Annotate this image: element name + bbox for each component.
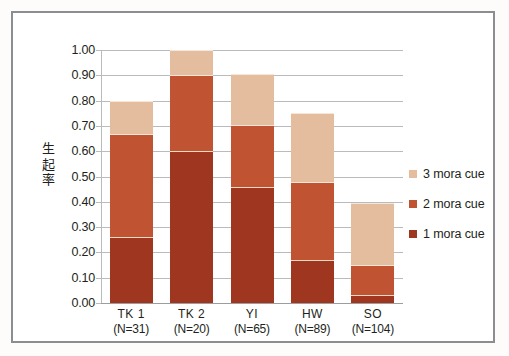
x-axis-label-group: SO(N=104) [342,307,404,337]
y-axis-tick-label: 0.40 [53,196,95,208]
x-axis-category-label: SO [342,307,404,322]
y-axis-tick [96,151,101,152]
x-axis-label-group: HW(N=89) [281,307,343,337]
bar-segment-s3[interactable] [231,74,274,125]
bar-group[interactable] [170,50,213,303]
y-axis-tick-label: 0.00 [53,297,95,309]
y-axis-tick [96,126,101,127]
y-axis-tick [96,278,101,279]
legend-swatch-icon [409,230,417,238]
bar-segment-s2[interactable] [291,182,334,260]
plot-area [101,50,403,303]
y-axis-tick-label: 0.90 [53,69,95,81]
chart-legend: 3 mora cue2 mora cue1 mora cue [409,159,501,249]
y-axis-tick-label: 1.00 [53,44,95,56]
legend-label: 1 mora cue [423,227,485,241]
legend-item[interactable]: 2 mora cue [409,189,501,219]
legend-label: 3 mora cue [423,167,485,181]
bar-segment-s1[interactable] [231,187,274,303]
bar-group[interactable] [110,50,153,303]
x-axis-category-label: YI [221,307,283,322]
chart-frame: 生 起 率 1.000.900.800.700.600.500.400.300.… [11,11,495,343]
y-axis-tick-label: 0.20 [53,246,95,258]
y-axis-tick [96,252,101,253]
bar-segment-s2[interactable] [110,134,153,238]
y-axis-tick-label: 0.80 [53,95,95,107]
bar-group[interactable] [231,50,274,303]
y-axis-tick-label: 0.60 [53,145,95,157]
bar-segment-s2[interactable] [170,75,213,151]
bar-segment-s3[interactable] [351,203,394,265]
x-axis-sample-size-label: (N=20) [161,322,223,337]
y-axis-tick [96,101,101,102]
x-axis-category-label: HW [281,307,343,322]
y-axis-tick [96,202,101,203]
x-axis-label-group: YI(N=65) [221,307,283,337]
y-axis-tick-labels: 1.000.900.800.700.600.500.400.300.200.10… [49,50,95,303]
chart-figure: 生 起 率 1.000.900.800.700.600.500.400.300.… [0,0,509,356]
legend-item[interactable]: 1 mora cue [409,219,501,249]
legend-label: 2 mora cue [423,197,485,211]
bar-group[interactable] [291,50,334,303]
x-axis-sample-size-label: (N=31) [100,322,162,337]
bar-segment-s1[interactable] [170,151,213,303]
y-axis-tick-label: 0.30 [53,221,95,233]
bar-segment-s1[interactable] [110,237,153,303]
y-axis-tick-label: 0.50 [53,171,95,183]
bar-group[interactable] [351,50,394,303]
x-axis-sample-size-label: (N=89) [281,322,343,337]
bar-segment-s1[interactable] [351,295,394,303]
y-axis-tick-label: 0.70 [53,120,95,132]
bar-segment-s2[interactable] [231,125,274,187]
y-axis-tick [96,227,101,228]
bar-segment-s3[interactable] [110,101,153,134]
y-axis-tick [96,50,101,51]
y-axis-tick-label: 0.10 [53,272,95,284]
y-axis-tick [96,303,101,304]
bar-segment-s3[interactable] [291,113,334,181]
legend-item[interactable]: 3 mora cue [409,159,501,189]
x-axis-label-group: TK 1(N=31) [100,307,162,337]
bar-segment-s1[interactable] [291,260,334,303]
bar-segment-s3[interactable] [170,50,213,75]
x-axis-sample-size-label: (N=104) [342,322,404,337]
y-axis-tick [96,75,101,76]
bar-segment-s2[interactable] [351,265,394,295]
y-axis-tick [96,177,101,178]
x-axis-category-label: TK 1 [100,307,162,322]
legend-swatch-icon [409,170,417,178]
legend-swatch-icon [409,200,417,208]
x-axis-category-label: TK 2 [161,307,223,322]
x-axis-label-group: TK 2(N=20) [161,307,223,337]
gridline [101,303,403,304]
x-axis-tick-labels: TK 1(N=31)TK 2(N=20)YI(N=65)HW(N=89)SO(N… [101,307,403,347]
x-axis-sample-size-label: (N=65) [221,322,283,337]
